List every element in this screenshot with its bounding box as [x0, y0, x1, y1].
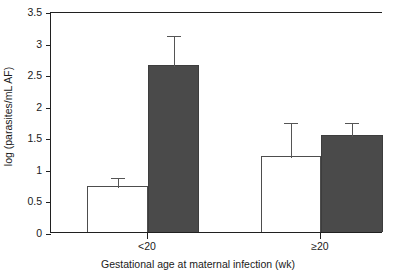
bar	[87, 186, 148, 232]
error-bar-cap	[345, 123, 359, 124]
error-bar	[291, 123, 292, 158]
y-tick-label: 3.5	[2, 7, 42, 17]
y-tick-mark	[46, 108, 51, 109]
y-tick-label: 1.5	[2, 133, 42, 143]
chart-figure: log (parasites/mL AF) 00.511.522.533.5 G…	[0, 0, 396, 275]
plot-area	[50, 12, 382, 233]
y-tick-label: 2.5	[2, 70, 42, 80]
y-tick-mark	[46, 234, 51, 235]
error-bar-cap	[284, 123, 298, 124]
x-tick-label: ≥20	[280, 240, 360, 253]
y-tick-label: 3	[2, 39, 42, 49]
y-tick-mark	[46, 202, 51, 203]
error-bar-cap	[167, 36, 181, 37]
x-tick-label: <20	[107, 240, 187, 253]
error-bar	[174, 36, 175, 67]
bar	[321, 135, 383, 232]
bar	[148, 65, 199, 232]
y-tick-label: 1	[2, 165, 42, 175]
bar	[261, 156, 321, 232]
y-tick-mark	[46, 76, 51, 77]
x-tick-mark	[147, 233, 148, 239]
y-tick-mark	[46, 45, 51, 46]
y-tick-mark	[46, 139, 51, 140]
x-tick-mark	[320, 233, 321, 239]
y-tick-mark	[46, 13, 51, 14]
error-bar	[352, 123, 353, 137]
y-tick-label: 0.5	[2, 196, 42, 206]
y-tick-label: 2	[2, 102, 42, 112]
y-axis-tick-labels: 00.511.522.533.5	[0, 0, 42, 275]
error-bar-cap	[111, 178, 125, 179]
x-axis-title: Gestational age at maternal infection (w…	[0, 258, 396, 271]
y-tick-mark	[46, 171, 51, 172]
y-tick-label: 0	[2, 228, 42, 238]
error-bar	[118, 178, 119, 187]
